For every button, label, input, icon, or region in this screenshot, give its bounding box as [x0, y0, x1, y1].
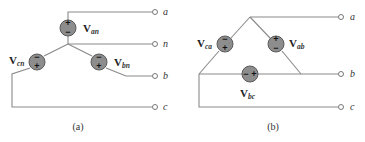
terminal-a: [339, 15, 344, 20]
svg-text:+: +: [96, 61, 101, 71]
label-vab: Vab: [289, 37, 305, 51]
terminal-label-c: c: [163, 101, 168, 112]
wire-junction-vbn: [68, 44, 92, 56]
label-vca: Vca: [197, 37, 212, 51]
terminal-label-c: c: [350, 101, 355, 112]
terminal-label-a: a: [350, 11, 355, 22]
wire-vab-right: [282, 51, 301, 74]
label-van: Van: [83, 22, 99, 36]
three-phase-source-diagram: + − − + − + Van Vbn Vcn a n b c (a): [0, 0, 365, 142]
panel-a-wye: + − − + − + Van Vbn Vcn a n b c (a): [9, 6, 168, 133]
svg-text:−: −: [243, 69, 248, 79]
label-vcn: Vcn: [9, 54, 24, 68]
wire-junction-vcn: [44, 44, 68, 56]
source-van: + −: [60, 18, 76, 37]
wire-c: [199, 74, 338, 107]
source-vbn: − +: [91, 52, 107, 71]
svg-text:−: −: [65, 27, 70, 37]
terminal-c: [339, 105, 344, 110]
source-vab: + −: [268, 34, 284, 53]
terminal-label-a: a: [163, 6, 168, 17]
svg-text:−: −: [273, 43, 278, 53]
panel-b-delta: − + + − − + Vca Vab Vbc a b c (b): [197, 11, 355, 133]
source-vcn: − +: [29, 52, 45, 71]
wire-vca-left: [199, 51, 219, 74]
svg-text:+: +: [222, 43, 227, 53]
terminal-label-n: n: [163, 38, 168, 49]
caption-a: (a): [72, 121, 83, 133]
terminal-b: [339, 72, 344, 77]
terminal-n: [153, 42, 158, 47]
wire-c: [12, 68, 152, 107]
wire-apex-vab: [250, 17, 270, 38]
terminal-c: [153, 105, 158, 110]
terminal-b: [153, 74, 158, 79]
source-vbc: − +: [242, 66, 258, 82]
terminal-a: [153, 10, 158, 15]
svg-text:+: +: [251, 69, 256, 79]
label-vbn: Vbn: [114, 56, 130, 70]
svg-text:+: +: [34, 61, 39, 71]
terminal-label-b: b: [163, 70, 168, 81]
source-vca: − +: [217, 34, 233, 53]
terminal-label-b: b: [350, 68, 355, 79]
label-vbc: Vbc: [240, 87, 256, 101]
wire-apex-vca: [231, 17, 250, 38]
caption-b: (b): [267, 121, 279, 133]
wire-a: [68, 12, 152, 20]
